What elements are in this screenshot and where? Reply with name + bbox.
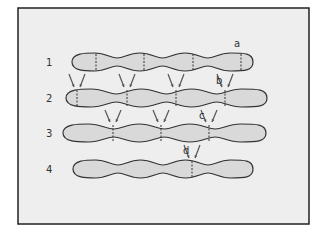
mark-label-a: a xyxy=(234,38,240,49)
diagram-stage: 1234abcd xyxy=(0,0,326,234)
row-label: 1 xyxy=(46,57,52,68)
row-label: 2 xyxy=(46,93,52,104)
mark-label-b: b xyxy=(216,75,222,86)
diagram-frame xyxy=(18,8,309,224)
row-label: 3 xyxy=(46,128,52,139)
diagram-canvas: 1234abcd xyxy=(0,0,326,234)
row-label: 4 xyxy=(46,164,52,175)
mark-label-c: c xyxy=(199,110,205,121)
mark-label-d: d xyxy=(183,145,189,156)
